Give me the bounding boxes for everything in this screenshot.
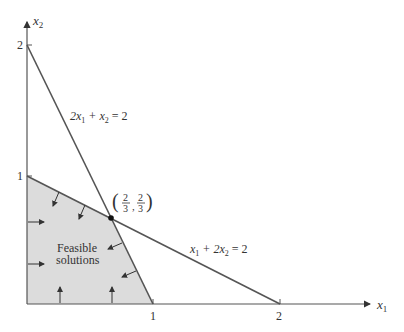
x1-tick-label-1: 1 — [150, 309, 156, 323]
vertex-point — [108, 215, 114, 221]
svg-text:): ) — [146, 190, 153, 213]
feasible-region — [27, 176, 153, 304]
constraint-label-2x1-plus-x2: 2x1 + x2 = 2 — [70, 109, 128, 125]
svg-text:3: 3 — [138, 203, 143, 214]
vertex-label: ( 2 3 , 2 3 ) — [112, 190, 153, 214]
x1-tick-label-2: 2 — [276, 309, 282, 323]
feasible-label-line2: solutions — [56, 253, 100, 267]
svg-text:3: 3 — [123, 203, 128, 214]
svg-text:2: 2 — [123, 192, 128, 203]
svg-text:(: ( — [112, 190, 119, 213]
svg-text:2: 2 — [138, 192, 143, 203]
svg-text:,: , — [132, 200, 135, 212]
x2-tick-label-1: 1 — [17, 169, 23, 183]
x1-axis-label: x1 — [376, 297, 387, 314]
feasible-region-diagram: x2 x1 2 1 1 2 2x1 + x2 = 2 x1 + 2x2 = 2 … — [0, 0, 404, 332]
constraint-label-x1-plus-2x2: x1 + 2x2 = 2 — [189, 242, 248, 258]
x2-tick-label-2: 2 — [17, 38, 23, 52]
x2-axis-label: x2 — [32, 13, 43, 30]
